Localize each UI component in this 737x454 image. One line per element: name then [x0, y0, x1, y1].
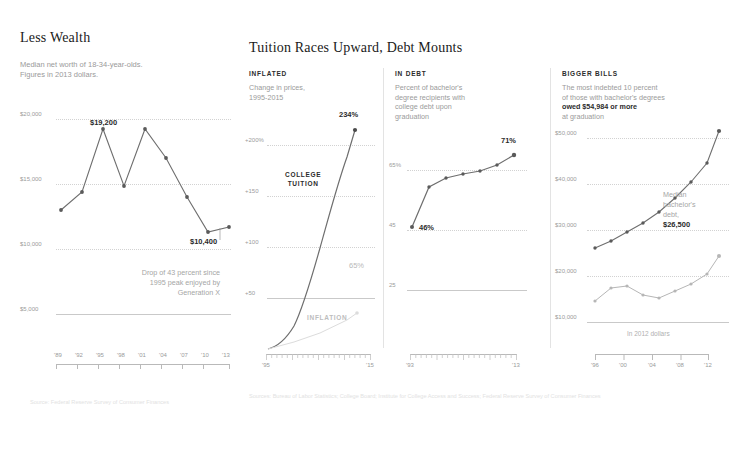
in-debt-xaxis: '93 '13: [399, 352, 529, 377]
xtick-label-2: '95: [96, 352, 104, 358]
in-debt-xtick-1: '13: [512, 362, 520, 368]
xtick-label-1: '92: [75, 352, 83, 358]
bigger-bills-xaxis-rule: [587, 352, 737, 362]
xtick-label-5: '04: [159, 352, 167, 358]
panel-in-debt-kicker: IN DEBT: [395, 70, 525, 77]
inflation-end-value: 65%: [349, 261, 364, 270]
bigger-bills-xaxis: '96 '00 '04 '08 '12: [587, 352, 737, 377]
main-title: Tuition Races Upward, Debt Mounts: [249, 40, 462, 56]
bigger-bills-xtick-3: '08: [676, 362, 684, 368]
in-debt-start-value: 46%: [419, 223, 434, 232]
bigger-bills-annot-text: Median bachelor's debt,: [663, 190, 696, 219]
bigger-bills-chart: $50,000 $40,000 $30,000 $20,000 $10,000: [555, 108, 735, 358]
in-debt-xaxis-rule: [399, 352, 529, 362]
bigger-bills-annot-value: $26,500: [663, 220, 690, 229]
panel-inflated-desc: Change in prices, 1995-2015: [249, 83, 361, 102]
left-annotation: Drop of 43 percent since 1995 peak enjoy…: [40, 268, 220, 298]
bigger-bills-xtick-1: '00: [619, 362, 627, 368]
bigger-bills-xtick-2: '04: [648, 362, 656, 368]
bigger-bills-xtick-4: '12: [704, 362, 712, 368]
inflated-xaxis: '95 '15: [255, 352, 377, 377]
xtick-label-8: '13: [222, 352, 230, 358]
in-debt-end-value: 71%: [501, 136, 516, 145]
inflated-xaxis-rule: [255, 352, 375, 362]
left-panel-title: Less Wealth: [20, 30, 90, 46]
left-panel-subtitle: Median net worth of 18-34-year-olds. Fig…: [20, 60, 200, 80]
inflated-xtick-1: '15: [366, 362, 374, 368]
xtick-label-0: '89: [54, 352, 62, 358]
xaxis-rule: [56, 364, 232, 372]
less-wealth-panel: Less Wealth Median net worth of 18-34-ye…: [0, 0, 237, 454]
xtick-label-4: '01: [138, 352, 146, 358]
inflation-label: INFLATION: [307, 313, 347, 322]
infographic-page: Less Wealth Median net worth of 18-34-ye…: [0, 0, 737, 454]
bigger-bills-desc-pre: The most indebted 10 percent of those wi…: [562, 83, 665, 102]
peak-value-label: $19,200: [90, 118, 117, 127]
panel-divider-1: [383, 68, 384, 348]
bigger-bills-note: In 2012 dollars: [627, 330, 670, 337]
panel-inflated: INFLATED Change in prices, 1995-2015: [249, 70, 379, 102]
left-source-note: Source: Federal Reserve Survey of Consum…: [30, 398, 220, 406]
panel-inflated-kicker: INFLATED: [249, 70, 379, 77]
inflated-xtick-0: '95: [262, 362, 270, 368]
inflated-chart: +200% +150 +100 +50 234% 65% COLLEGE TUI…: [245, 108, 377, 358]
inflated-end-value: 234%: [339, 110, 358, 119]
xtick-label-6: '07: [180, 352, 188, 358]
bigger-bills-lines: [555, 108, 735, 353]
panel-divider-2: [550, 68, 551, 348]
xtick-label-3: '98: [117, 352, 125, 358]
tuition-debt-section: Tuition Races Upward, Debt Mounts INFLAT…: [237, 0, 737, 454]
bigger-bills-annotation: Median bachelor's debt, $26,500: [663, 190, 729, 230]
section-source-note: Sources: Bureau of Labor Statistics; Col…: [249, 392, 729, 400]
college-tuition-label: COLLEGE TUITION: [285, 170, 321, 188]
bigger-bills-xtick-0: '96: [591, 362, 599, 368]
final-value-label: $10,400: [190, 237, 217, 246]
panel-bigger-bills-kicker: BIGGER BILLS: [562, 70, 737, 77]
in-debt-chart: 65% 45 25 46% 71%: [389, 108, 534, 358]
in-debt-xtick-0: '93: [406, 362, 414, 368]
less-wealth-chart: $20,000 $15,000 $10,000 $5,000: [20, 110, 220, 360]
xtick-label-7: '10: [201, 352, 209, 358]
less-wealth-line: [20, 110, 235, 340]
less-wealth-xaxis: '89 '92 '95 '98 '01 '04 '07 '10 '13: [56, 352, 232, 382]
